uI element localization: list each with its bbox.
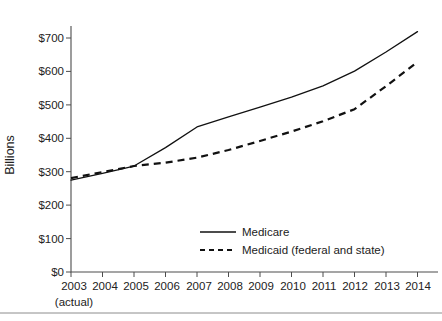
y-tick-label: $100 [38, 233, 64, 245]
x-tick-label: 2003 [61, 280, 87, 292]
chart-legend: Medicare Medicaid (federal and state) [200, 226, 385, 256]
x-tick-label: 2008 [217, 280, 243, 292]
legend-label-medicaid: Medicaid (federal and state) [242, 244, 385, 256]
legend-label-medicare: Medicare [242, 226, 289, 238]
y-tick-label: $0 [51, 266, 64, 278]
x-tick-label: 2004 [92, 280, 118, 292]
y-axis-title: Billions [3, 135, 17, 175]
x-tick-label: 2014 [405, 280, 431, 292]
x-tick-label: 2011 [312, 280, 337, 292]
chart-figure: Billions $700 $600 $500 $400 $300 $200 $… [0, 0, 442, 321]
x-tick-label: 2007 [186, 280, 212, 292]
y-tick-label: $600 [38, 65, 64, 77]
line-chart: Billions $700 $600 $500 $400 $300 $200 $… [0, 0, 442, 321]
x-axis-tick-labels: 2003 2004 2005 2006 2007 2008 2009 2010 … [61, 280, 431, 292]
y-tick-label: $200 [38, 199, 64, 211]
y-tick-label: $500 [38, 99, 64, 111]
x-axis-ticks [71, 272, 418, 277]
y-tick-label: $400 [38, 132, 64, 144]
x-tick-label: 2005 [123, 280, 149, 292]
y-tick-label: $300 [38, 166, 64, 178]
y-axis-tick-labels: $700 $600 $500 $400 $300 $200 $100 $0 [38, 32, 64, 278]
x-tick-label: 2012 [342, 280, 368, 292]
x-axis-actual-note: (actual) [55, 296, 94, 308]
series-line-medicare [71, 32, 418, 180]
x-tick-label: 2013 [374, 280, 400, 292]
x-tick-label: 2006 [154, 280, 180, 292]
x-tick-label: 2009 [248, 280, 274, 292]
y-axis-ticks [66, 38, 71, 272]
y-tick-label: $700 [38, 32, 64, 44]
series-line-medicaid [71, 62, 418, 178]
x-tick-label: 2010 [280, 280, 306, 292]
